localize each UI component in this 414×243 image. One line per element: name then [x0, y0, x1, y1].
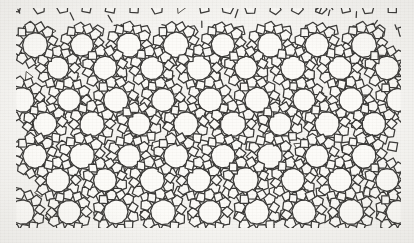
- square-tile: [371, 51, 379, 59]
- square-tile: [337, 192, 347, 201]
- square-tile: [219, 104, 228, 113]
- tiling-layer: [6, 1, 410, 243]
- square-tile: [124, 221, 133, 228]
- square-tile: [312, 105, 320, 113]
- square-tile: [301, 28, 309, 36]
- square-tile: [256, 24, 266, 34]
- square-tile: [208, 27, 216, 36]
- square-tile: [99, 195, 107, 203]
- twelve-ring-pore: [58, 89, 81, 111]
- square-tile: [337, 80, 346, 90]
- square-tile: [326, 160, 336, 169]
- square-tile: [349, 27, 358, 35]
- square-tile: [371, 164, 378, 172]
- square-tile: [159, 28, 167, 36]
- square-tile: [18, 28, 25, 36]
- square-tile: [229, 163, 237, 171]
- square-tile: [66, 137, 75, 146]
- square-tile: [115, 25, 124, 34]
- tiling-diagram: Periodic-looking network of large circul…: [0, 0, 414, 243]
- square-tile: [116, 137, 125, 146]
- square-tile: [171, 106, 179, 115]
- square-tile: [289, 132, 297, 140]
- twelve-ring-pore: [58, 201, 81, 224]
- square-tile: [349, 138, 357, 146]
- square-tile: [277, 49, 286, 58]
- square-tile: [382, 84, 390, 92]
- figure-root: Periodic-looking network of large circul…: [0, 0, 414, 243]
- twelve-ring-pore: [339, 199, 363, 224]
- square-tile: [185, 48, 194, 57]
- twelve-ring-pore: [199, 201, 222, 224]
- square-tile: [300, 140, 308, 148]
- square-tile: [256, 136, 266, 146]
- square-tile: [99, 83, 107, 91]
- square-tile: [387, 142, 397, 152]
